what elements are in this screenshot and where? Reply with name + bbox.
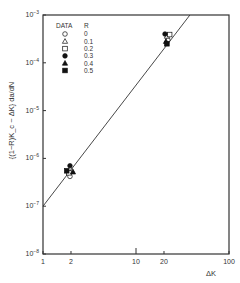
legend-marker-open-square: [63, 46, 68, 51]
y-tick-label: 10−3: [26, 9, 40, 18]
legend-marker-filled-circle: [63, 54, 68, 59]
data-point-filled-circle: [163, 32, 168, 37]
chart-canvas: 10−310−410−510−610−710−8121020100ΔK{(1−R…: [0, 0, 240, 283]
y-axis-title: {(1−R)K_c − ΔK} da/dN: [7, 82, 16, 160]
legend-header-data: DATA: [56, 22, 73, 29]
data-point-open-square: [167, 32, 172, 37]
legend-label: 0.4: [84, 60, 93, 67]
legend: DATAR00.10.20.30.40.5: [56, 22, 93, 74]
legend-label: 0.2: [84, 45, 93, 52]
y-tick-label: 10−6: [26, 152, 40, 161]
legend-label: 0: [84, 30, 88, 37]
data-point-filled-circle: [68, 164, 73, 169]
y-tick-label: 10−5: [26, 105, 40, 114]
legend-label: 0.5: [84, 67, 93, 74]
y-tick-label: 10−7: [26, 200, 40, 209]
y-tick-label: 10−8: [26, 248, 40, 257]
x-tick-label: 10: [132, 258, 140, 265]
x-axis-title: ΔK: [206, 269, 216, 278]
legend-label: 0.3: [84, 52, 93, 59]
legend-marker-filled-square: [63, 68, 68, 73]
legend-label: 0.1: [84, 38, 93, 45]
data-point-filled-square: [64, 169, 69, 174]
legend-marker-filled-triangle: [62, 61, 67, 66]
x-tick-label: 100: [223, 258, 235, 265]
legend-marker-open-circle: [63, 32, 68, 37]
legend-marker-open-triangle: [62, 39, 67, 44]
x-tick-label: 20: [160, 258, 168, 265]
y-tick-label: 10−4: [26, 57, 40, 66]
plot-frame: [43, 15, 229, 254]
x-tick-label: 2: [69, 258, 73, 265]
legend-header-r: R: [84, 22, 89, 29]
x-tick-label: 1: [41, 258, 45, 265]
data-point-filled-square: [165, 41, 170, 46]
